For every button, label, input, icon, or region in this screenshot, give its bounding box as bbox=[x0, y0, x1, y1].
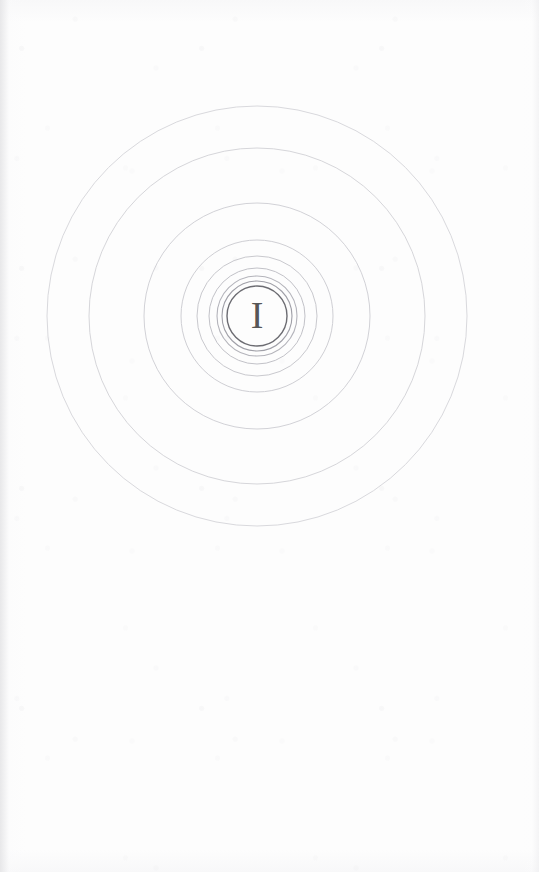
chapter-opening-page: I bbox=[0, 0, 539, 872]
concentric-rings-ornament bbox=[0, 0, 539, 872]
chapter-numeral: I bbox=[227, 296, 287, 334]
